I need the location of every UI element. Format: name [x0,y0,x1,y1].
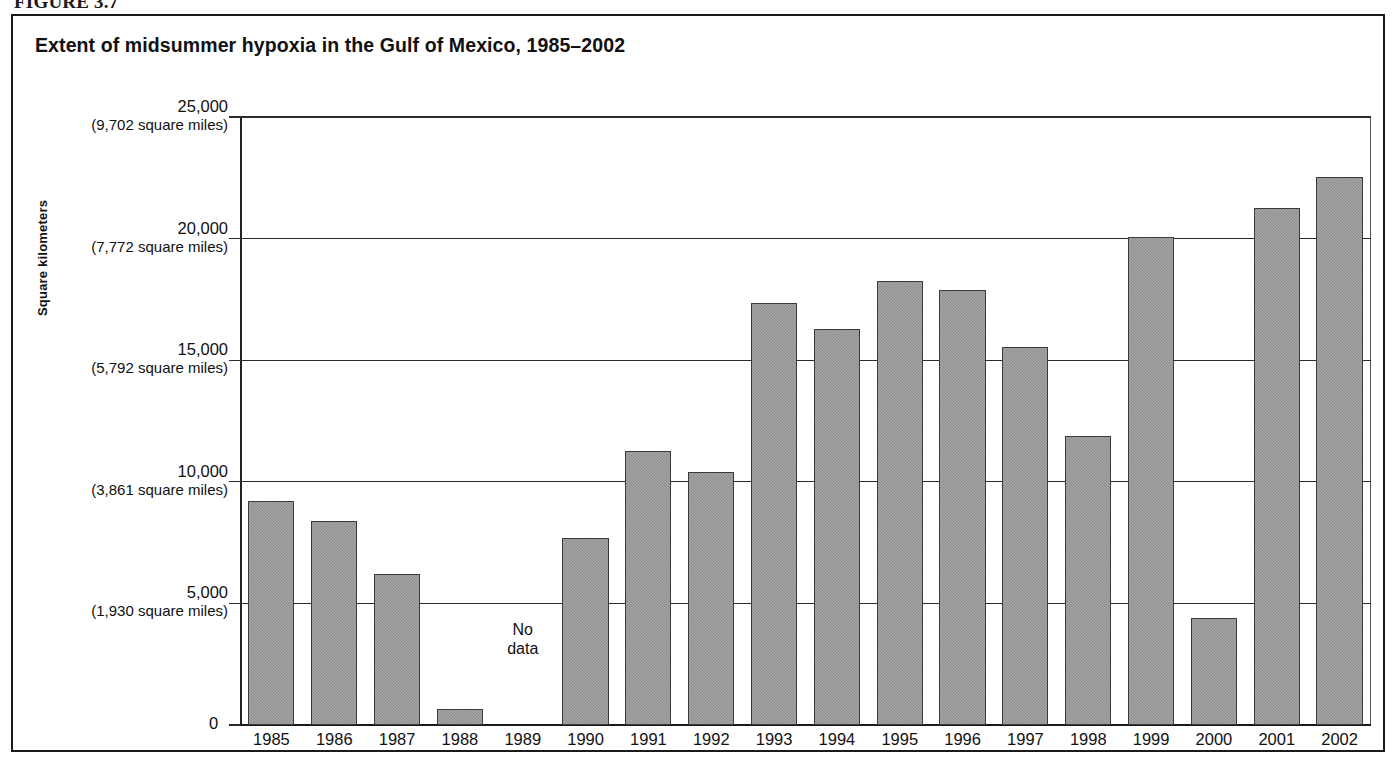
y-tick-value-miles: (7,772 square miles) [91,238,228,256]
gridline-20000 [240,238,1371,239]
y-tick-value: 15,000 [91,340,228,359]
y-tick-label-25000: 25,000(9,702 square miles) [91,97,228,134]
bar-2000 [1191,618,1237,725]
bar-1993 [751,303,797,725]
y-axis-line [240,117,242,726]
y-tick-value-miles: (9,702 square miles) [91,116,228,134]
x-tick-label-2000: 2000 [1183,730,1246,749]
x-tick-label-1990: 1990 [554,730,617,749]
x-axis-tick-labels: 1985198619871988198919901991199219931994… [240,730,1371,764]
y-tick-label-10000: 10,000(3,861 square miles) [91,462,228,499]
x-tick-label-1997: 1997 [994,730,1057,749]
x-tick-label-1999: 1999 [1120,730,1183,749]
y-tick-mark-25000 [229,116,240,117]
x-tick-label-1994: 1994 [806,730,869,749]
bar-1994 [814,329,860,725]
y-tick-mark-15000 [229,360,240,361]
y-tick-value-miles: (5,792 square miles) [91,359,228,377]
bar-1986 [311,521,357,725]
x-tick-label-1985: 1985 [240,730,303,749]
bar-1997 [1002,347,1048,725]
x-tick-label-1996: 1996 [931,730,994,749]
x-tick-label-1992: 1992 [680,730,743,749]
gridline-25000 [240,116,1371,117]
y-tick-value: 10,000 [91,462,228,481]
y-tick-label-15000: 15,000(5,792 square miles) [91,340,228,377]
x-tick-label-2002: 2002 [1308,730,1371,749]
y-tick-value-miles: (1,930 square miles) [91,602,228,620]
bar-2001 [1254,208,1300,725]
x-tick-label-1998: 1998 [1057,730,1120,749]
y-tick-label-20000: 20,000(7,772 square miles) [91,219,228,256]
y-axis-zero-label: 0 [209,714,218,733]
bar-2002 [1316,177,1362,725]
figure-caption: FIGURE 3.7 [14,0,118,13]
bar-1985 [248,501,294,725]
y-tick-mark-0 [229,724,240,725]
bar-1988 [437,709,483,725]
bar-1992 [688,472,734,725]
chart-title: Extent of midsummer hypoxia in the Gulf … [35,34,625,57]
y-tick-mark-20000 [229,238,240,239]
x-tick-label-1987: 1987 [366,730,429,749]
x-tick-label-1995: 1995 [868,730,931,749]
bar-1998 [1065,436,1111,725]
x-tick-label-2001: 2001 [1245,730,1308,749]
plot-right-border [1370,117,1372,726]
bar-1987 [374,574,420,725]
x-tick-label-1988: 1988 [429,730,492,749]
y-tick-mark-10000 [229,481,240,482]
x-tick-label-1989: 1989 [491,730,554,749]
y-tick-value: 20,000 [91,219,228,238]
gridline-10000 [240,481,1371,482]
x-tick-label-1991: 1991 [617,730,680,749]
x-tick-label-1986: 1986 [303,730,366,749]
plot-area: Nodata [240,117,1371,725]
bar-1990 [562,538,608,725]
y-tick-value: 5,000 [91,583,228,602]
gridline-15000 [240,360,1371,361]
bar-1996 [939,290,985,725]
bar-1999 [1128,237,1174,725]
y-axis-tick-labels: 25,000(9,702 square miles)20,000(7,772 s… [13,117,240,737]
x-tick-label-1993: 1993 [743,730,806,749]
y-tick-mark-5000 [229,603,240,604]
y-tick-value: 25,000 [91,97,228,116]
bar-1991 [625,451,671,725]
bar-1995 [877,281,923,725]
figure-panel: Extent of midsummer hypoxia in the Gulf … [11,14,1385,752]
y-tick-label-5000: 5,000(1,930 square miles) [91,583,228,620]
y-tick-value-miles: (3,861 square miles) [91,481,228,499]
